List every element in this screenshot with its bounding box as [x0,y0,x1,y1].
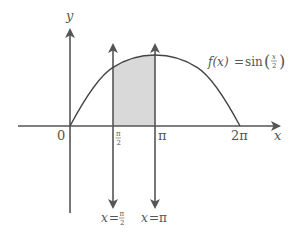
paren-right: ) [279,52,285,71]
x-axis-label: x [274,128,282,143]
function-label: f(x) = sin ( x 2 ) [207,52,285,71]
function-sin: sin [245,55,263,69]
tick-half-pi-num: π [116,130,121,138]
vline2-lhs: x [141,211,148,225]
tick-two-pi: 2π [231,128,248,143]
sine-diagram: y x 0 π 2 π 2π f(x) = sin ( x 2 ) x = π … [0,0,295,240]
label-x-eq-half-pi: x = π 2 [101,210,125,227]
vline1-lhs: x [101,211,108,225]
tick-pi: π [158,128,167,143]
paren-left: ( [264,52,270,71]
function-eq: = [234,55,244,69]
vline1-den: 2 [120,219,124,227]
origin-label: 0 [57,128,65,143]
vline1-num: π [120,210,125,218]
vline2-eq: = [149,211,159,225]
frac-den: 2 [272,62,276,70]
frac-num: x [272,53,276,61]
function-lhs: f(x) [207,55,229,69]
y-axis-label: y [65,8,74,23]
label-x-eq-pi: x = π [141,211,167,225]
shaded-area [113,55,155,126]
vline2-value: π [159,211,167,225]
tick-half-pi-den: 2 [117,139,121,147]
vline1-eq: = [109,211,119,225]
